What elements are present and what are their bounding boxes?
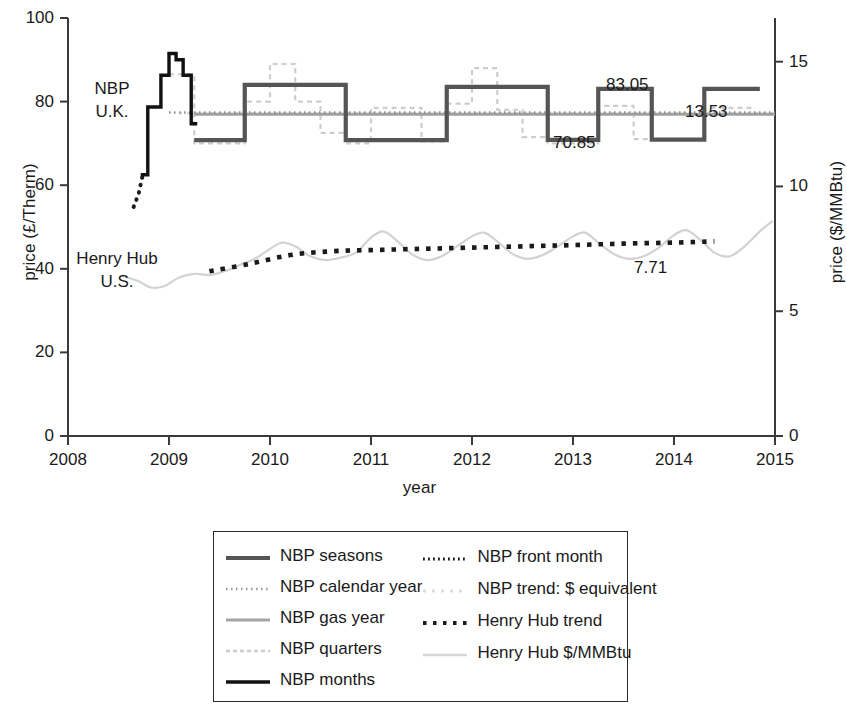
x-tick-label: 2009 (150, 450, 188, 470)
legend-item-label: NBP trend: $ equivalent (477, 579, 656, 599)
legend-column-left: NBP seasonsNBP calendar yearNBP gas year… (225, 541, 422, 695)
legend-swatch-dotted-fine-gray (225, 583, 271, 595)
annotation-henry-hub-us: Henry Hub U.S. (62, 248, 172, 294)
legend-line-sample-icon (422, 615, 468, 627)
legend-item-label: NBP front month (477, 547, 602, 567)
legend-swatch-dotted-verylight (422, 585, 468, 597)
legend-swatch-dotted-black-fine (422, 553, 468, 565)
x-tick-label: 2013 (554, 450, 592, 470)
y-right-tick-label: 15 (789, 52, 808, 72)
legend-swatch-solid-thick-gray (225, 552, 271, 564)
series-henry-hub-mmbtu (124, 221, 772, 288)
legend-line-sample-icon (225, 674, 271, 686)
series-nbp-quarters (169, 64, 755, 143)
y-left-tick-label: 100 (0, 8, 54, 28)
annotation-nbp-line1: NBP (72, 78, 152, 101)
x-tick-label: 2010 (251, 450, 289, 470)
legend-item[interactable]: NBP months (225, 664, 422, 695)
y-left-tick-label: 80 (0, 92, 54, 112)
value-label-83-05: 83.05 (606, 75, 649, 95)
series-nbp-front-month (134, 175, 143, 207)
legend-item[interactable]: NBP calendar year (225, 572, 422, 603)
y-right-tick-label: 0 (789, 426, 798, 446)
legend-line-sample-icon (422, 647, 468, 659)
annotation-nbp-uk: NBP U.K. (72, 78, 152, 124)
legend-swatch-dashed-light-gray (225, 645, 271, 657)
value-label-7-71: 7.71 (634, 258, 667, 278)
legend-line-sample-icon (225, 550, 271, 562)
legend-swatch-dotted-square-black (422, 617, 468, 629)
legend-item-label: NBP months (280, 670, 375, 690)
legend-item-label: NBP gas year (280, 608, 385, 628)
legend-line-sample-icon (422, 551, 468, 563)
legend-item[interactable]: Henry Hub $/MMBtu (422, 637, 656, 669)
legend-item[interactable]: NBP quarters (225, 633, 422, 664)
y-left-tick-label: 60 (0, 175, 54, 195)
y-axis-right-title: price ($/MMBtu) (827, 122, 847, 322)
y-left-tick-label: 0 (0, 426, 54, 446)
legend-line-sample-icon (225, 581, 271, 593)
legend-item[interactable]: Henry Hub trend (422, 605, 656, 637)
y-axis-left-title: price (£/Therm) (20, 122, 40, 322)
legend-line-sample-icon (422, 583, 468, 595)
legend-item-label: Henry Hub $/MMBtu (477, 643, 631, 663)
legend-column-right: NBP front monthNBP trend: $ equivalentHe… (422, 541, 656, 695)
x-tick-label: 2015 (756, 450, 794, 470)
x-tick-label: 2012 (453, 450, 491, 470)
chart-legend: NBP seasonsNBP calendar yearNBP gas year… (213, 531, 628, 702)
y-right-tick-label: 10 (789, 176, 808, 196)
legend-swatch-wavy-light (422, 649, 468, 661)
legend-item[interactable]: NBP front month (422, 541, 656, 573)
legend-item[interactable]: NBP trend: $ equivalent (422, 573, 656, 605)
x-tick-label: 2014 (655, 450, 693, 470)
x-tick-label: 2011 (353, 450, 390, 470)
annotation-hh-line1: Henry Hub (62, 248, 172, 271)
legend-item[interactable]: NBP seasons (225, 541, 422, 572)
value-label-13-53: 13.53 (685, 102, 728, 122)
annotation-hh-line2: U.S. (62, 271, 172, 294)
y-right-tick-label: 5 (789, 301, 798, 321)
legend-item[interactable]: NBP gas year (225, 603, 422, 634)
x-tick-label: 2008 (49, 450, 87, 470)
legend-item-label: NBP quarters (280, 639, 382, 659)
y-left-tick-label: 40 (0, 259, 54, 279)
y-left-tick-label: 20 (0, 342, 54, 362)
legend-item-label: NBP calendar year (280, 577, 422, 597)
value-label-70-85: 70.85 (553, 133, 596, 153)
legend-item-label: NBP seasons (280, 546, 383, 566)
annotation-nbp-line2: U.K. (72, 101, 152, 124)
x-axis-title: year (0, 478, 839, 498)
legend-line-sample-icon (225, 643, 271, 655)
legend-item-label: Henry Hub trend (477, 611, 602, 631)
legend-swatch-solid-thin-gray (225, 614, 271, 626)
legend-line-sample-icon (225, 612, 271, 624)
legend-swatch-solid-black (225, 676, 271, 688)
